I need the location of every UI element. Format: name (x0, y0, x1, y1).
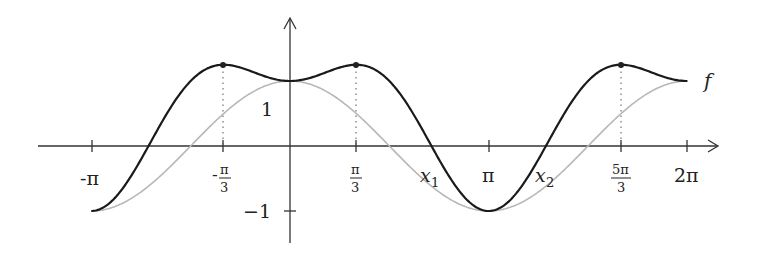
svg-text:2: 2 (546, 175, 554, 190)
svg-text:π: π (351, 162, 360, 177)
svg-text:5π: 5π (612, 162, 629, 177)
label-f: f (702, 69, 715, 93)
max-point (220, 62, 226, 68)
svg-text:3: 3 (351, 180, 359, 195)
f-curve (91, 65, 687, 211)
label-neg-pi: -π (80, 167, 99, 189)
svg-text:3: 3 (220, 180, 228, 195)
dotted-guides (223, 66, 621, 146)
label-2pi: 2π (674, 164, 699, 186)
label-x1: x 1 (420, 164, 439, 190)
max-point (618, 62, 624, 68)
label-y-one: 1 (261, 98, 273, 120)
svg-text:x: x (535, 164, 546, 186)
svg-text:-: - (212, 164, 218, 184)
label-5pi-over-3: 5π 3 (611, 162, 631, 195)
svg-text:1: 1 (431, 175, 439, 190)
svg-text:π: π (220, 162, 229, 177)
label-y-minus-one: −1 (243, 200, 271, 222)
label-x2: x 2 (535, 164, 554, 190)
svg-text:x: x (420, 164, 431, 186)
function-plot: -π - π 3 π 3 x 1 π x 2 5π 3 2π 1 −1 f (0, 0, 761, 257)
max-point (353, 62, 359, 68)
label-pi-over-3: π 3 (350, 162, 362, 195)
label-pi: π (482, 164, 495, 186)
svg-text:3: 3 (617, 180, 625, 195)
label-neg-pi-over-3: - π 3 (212, 162, 231, 195)
